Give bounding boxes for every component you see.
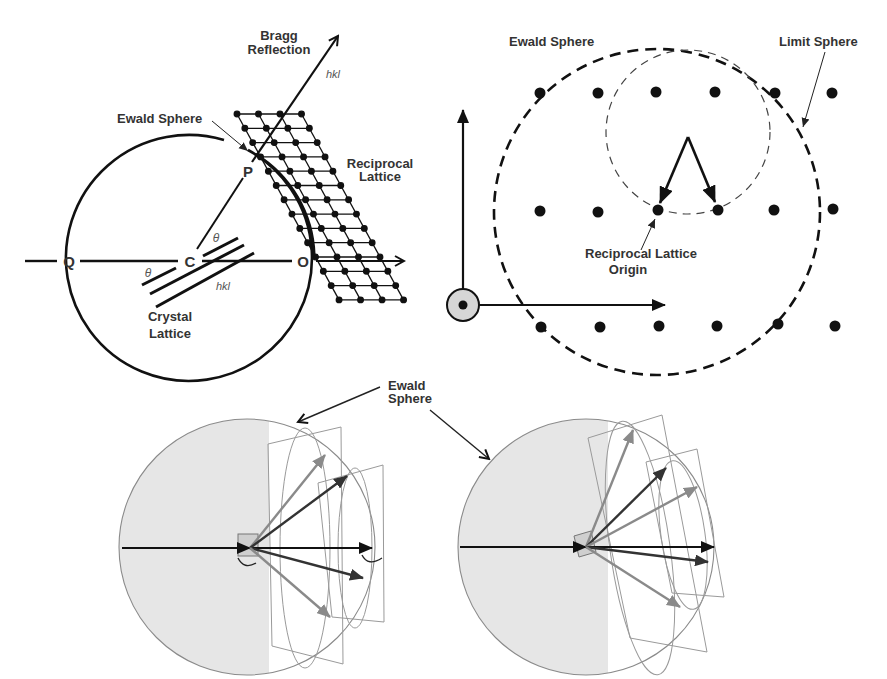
label-lattice: Lattice [359,169,401,184]
panel-ewald-3d: Ewald Sphere [119,378,724,679]
label-origin: Origin [609,262,647,277]
reciprocal-lattice-points [535,87,841,333]
ewald-sphere-circle [606,50,770,214]
diffracted-vector [688,137,715,202]
ewald-pointer-left [298,387,380,422]
label-crystal: Crystal [148,309,192,324]
label-point-q: Q [63,253,75,270]
label-theta-lower: θ [145,266,152,280]
limit-sphere-pointer [803,52,825,127]
label-crystal-lattice: Lattice [149,326,191,341]
label-hkl-planes: hkl [216,280,231,292]
ewald-sphere-figure: Bragg Reflection hkl Ewald Sphere Recipr… [0,0,887,679]
label-bragg: Bragg [260,28,298,43]
ewald-pointer-right [430,410,489,459]
ewald-circle-contact-arc [255,154,314,255]
label-sphere: Sphere [388,391,432,406]
panel-limit-sphere: Ewald Sphere Limit Sphere Reciprocal Lat… [447,34,858,375]
label-hkl-top: hkl [326,68,341,80]
reciprocal-lattice-grid [234,111,406,303]
label-limit-sphere: Limit Sphere [779,34,858,49]
label-theta-upper: θ [213,231,220,245]
label-reflection: Reflection [248,42,311,57]
label-point-c: C [185,253,196,270]
label-point-o: O [297,253,309,270]
ewald-sphere-3d-left [119,419,384,679]
label-ewald-sphere: Ewald Sphere [117,111,202,126]
ewald-sphere-3d-right [458,415,724,679]
label-point-p: P [243,163,253,180]
panel-bragg-ewald: Bragg Reflection hkl Ewald Sphere Recipr… [25,28,413,381]
label-ewald-sphere-2: Ewald Sphere [509,34,594,49]
label-reciprocal-lattice: Reciprocal Lattice [585,246,697,261]
incident-vector [660,137,688,203]
crystal-origin-dot [459,301,468,310]
